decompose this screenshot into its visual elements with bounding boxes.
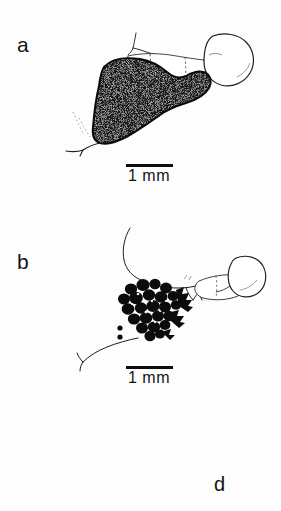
figure-illustration	[0, 0, 281, 511]
scale-bar-label: 1 mm	[94, 370, 204, 387]
figure-container: a b d 1 mm 1 mm	[0, 0, 281, 511]
panel-a-head-capsule	[204, 34, 253, 86]
panel-b-head-capsule	[228, 256, 266, 297]
scale-bar-panel-b: 1 mm	[94, 366, 204, 386]
panel-b-drawing	[77, 228, 266, 371]
scale-bar-label: 1 mm	[94, 168, 204, 185]
panel-b-egg-cluster	[117, 279, 193, 341]
panel-label-a: a	[17, 34, 29, 55]
panel-a-drawing	[66, 33, 253, 156]
panel-label-d: d	[214, 474, 225, 494]
panel-label-b: b	[17, 251, 29, 272]
scale-bar-panel-a: 1 mm	[94, 164, 204, 184]
